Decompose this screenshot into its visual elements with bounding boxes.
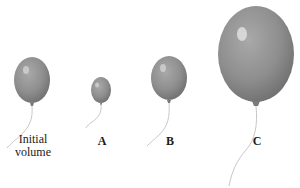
label-b: B	[162, 135, 178, 148]
label-c: C	[249, 135, 265, 148]
balloon-a-icon	[86, 77, 111, 128]
label-a: A	[94, 135, 110, 148]
label-initial-volume: Initial volume	[8, 133, 58, 159]
label-initial-line2: volume	[8, 146, 58, 159]
balloon-diagram	[0, 0, 300, 188]
balloon-c-icon	[218, 6, 294, 186]
balloon-b-icon	[147, 56, 187, 146]
